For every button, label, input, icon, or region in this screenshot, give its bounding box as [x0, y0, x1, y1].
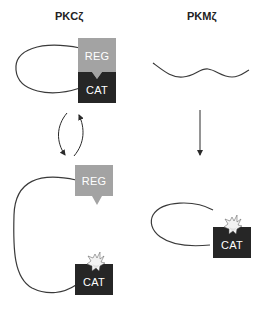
cat-label-bottom: CAT: [75, 276, 113, 288]
pkc-chain-loop: [16, 45, 80, 92]
reversible-arrows: [58, 113, 83, 156]
cat-label-pkm: CAT: [213, 239, 251, 251]
pkm-chain-wave: [153, 63, 249, 77]
arrow-up-curve: [74, 115, 83, 156]
reg-label-bottom: REG: [75, 175, 113, 187]
arrow-down-curve: [58, 113, 67, 155]
reg-label-top: REG: [78, 50, 116, 62]
pkc-chain-extended: [14, 177, 76, 293]
pkm-zeta-title: PKMζ: [187, 10, 217, 22]
pkm-chain-loop: [151, 203, 213, 246]
pkc-zeta-title: PKCζ: [55, 10, 83, 22]
diagram-graphic: [0, 0, 260, 309]
cat-label-top: CAT: [78, 84, 116, 96]
